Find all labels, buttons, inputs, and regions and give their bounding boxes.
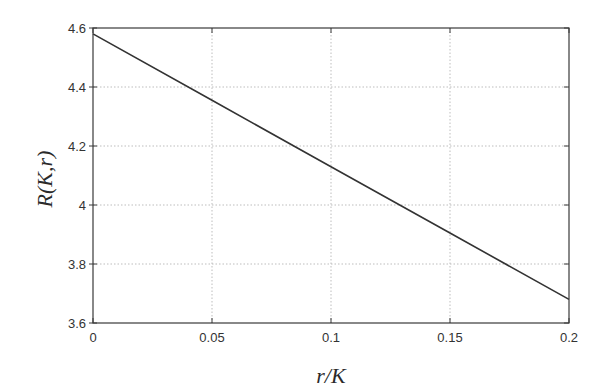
y-tick-label: 3.8 [68, 257, 86, 272]
y-tick-label: 4.6 [68, 21, 86, 36]
x-tick-label: 0.1 [322, 330, 340, 345]
y-axis-title: R(K,r) [32, 151, 57, 209]
y-tick-labels: 3.63.844.24.44.6 [68, 21, 86, 331]
x-tick-labels: 00.050.10.150.2 [89, 330, 578, 345]
grid-lines [93, 28, 569, 323]
x-tick-label: 0.15 [437, 330, 462, 345]
y-tick-label: 4 [79, 198, 86, 213]
x-axis-title: r/K [316, 363, 347, 388]
y-tick-label: 4.2 [68, 139, 86, 154]
line-chart: 00.050.10.150.2 3.63.844.24.44.6 r/K R(K… [0, 0, 611, 390]
x-tick-label: 0.2 [560, 330, 578, 345]
y-tick-label: 4.4 [68, 80, 86, 95]
x-tick-label: 0.05 [199, 330, 224, 345]
y-tick-label: 3.6 [68, 316, 86, 331]
x-tick-label: 0 [89, 330, 96, 345]
